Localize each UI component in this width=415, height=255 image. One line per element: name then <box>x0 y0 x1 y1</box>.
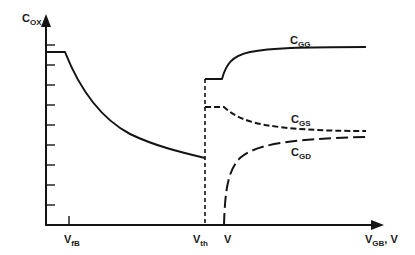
cgd-label: CGD <box>291 146 311 161</box>
capacitance-diagram: COX VfB Vth V VGB, V CGG CGS CGD <box>0 0 415 255</box>
cgs-curve <box>205 107 366 131</box>
vth-label: Vth <box>193 233 208 248</box>
accumulation-depletion-curve <box>46 52 205 158</box>
y-axis-arrow-icon <box>41 14 51 27</box>
vfb-label: VfB <box>64 233 80 248</box>
x-axis-arrow-icon <box>371 220 384 230</box>
cgg-curve <box>205 47 366 79</box>
cgs-label: CGS <box>291 113 311 128</box>
x-axis-label: VGB, V <box>365 233 398 248</box>
v-label: V <box>224 233 232 245</box>
cgg-label: CGG <box>290 34 310 49</box>
y-axis-label: COX <box>22 12 42 27</box>
y-axis-ticks <box>46 45 55 205</box>
